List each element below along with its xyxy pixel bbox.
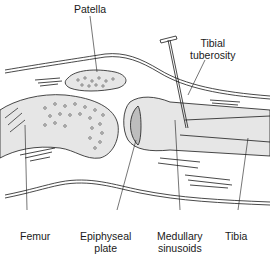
- label-medullary-line2: sinusoids: [157, 242, 203, 254]
- label-tibial-line2: tuberosity: [190, 49, 236, 61]
- tibia-bone: [124, 97, 270, 156]
- label-medullary-line1: Medullary: [157, 230, 203, 242]
- label-patella: Patella: [74, 3, 106, 15]
- patella-bone: [65, 70, 126, 91]
- label-tibia: Tibia: [225, 230, 247, 242]
- label-epiphyseal-line2: plate: [80, 242, 131, 254]
- label-femur: Femur: [20, 230, 50, 242]
- label-medullary-sinusoids: Medullary sinusoids: [157, 230, 203, 254]
- femur-bone: [0, 95, 118, 159]
- label-epiphyseal-plate: Epiphyseal plate: [80, 230, 131, 254]
- label-tibial-tuberosity: Tibial tuberosity: [190, 37, 236, 61]
- label-tibial-line1: Tibial: [190, 37, 236, 49]
- label-epiphyseal-line1: Epiphyseal: [80, 230, 131, 242]
- lower-skin-outline: [5, 180, 270, 202]
